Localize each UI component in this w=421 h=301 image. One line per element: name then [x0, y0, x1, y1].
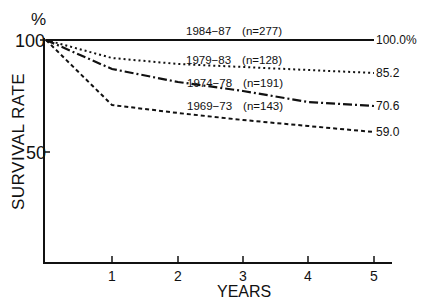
x-axis-title: YEARS [217, 283, 271, 300]
series-label-1969-73: 1969−73 (n=143) [187, 100, 283, 112]
ytick-label-100: 100 [15, 31, 45, 51]
end-value-1974-78: 70.6 [376, 99, 400, 113]
ytick-label-50: 50 [26, 143, 46, 163]
xtick-label-1: 1 [108, 268, 116, 284]
survival-chart: % 100 50 SURVIVAL RATE 1 2 3 4 5 YEARS 1… [0, 0, 421, 301]
series-label-1974-78: 1974−78 (n=191) [187, 77, 283, 89]
series-label-1984-87: 1984−87 (n=277) [186, 25, 282, 37]
end-value-1969-73: 59.0 [376, 125, 400, 139]
y-unit-label: % [31, 10, 46, 29]
end-value-1984-87: 100.0% [376, 33, 417, 47]
end-value-1979-83: 85.2 [376, 66, 400, 80]
xtick-label-5: 5 [370, 268, 378, 284]
xtick-label-4: 4 [304, 268, 312, 284]
series-1974-78-line [46, 40, 374, 106]
xtick-label-2: 2 [174, 268, 182, 284]
y-axis-title: SURVIVAL RATE [9, 73, 28, 210]
xtick-label-3: 3 [239, 268, 247, 284]
series-label-1979-83: 1979−83 (n=128) [186, 54, 282, 66]
